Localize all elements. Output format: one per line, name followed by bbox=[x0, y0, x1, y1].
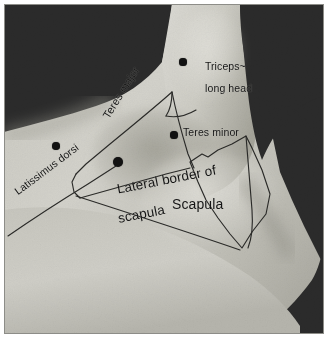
triceps-long-head-marker bbox=[179, 58, 186, 65]
label-teres-minor: Teres minor bbox=[183, 127, 239, 138]
teres-minor-marker bbox=[170, 131, 177, 138]
label-triceps-long-head-line1: Triceps~ bbox=[205, 60, 246, 72]
label-scapula: Scapula bbox=[172, 197, 223, 212]
label-triceps-long-head: Triceps~ long head bbox=[193, 50, 252, 106]
label-triceps-long-head-line2: long head bbox=[205, 82, 252, 94]
anatomy-figure: Triceps~ long head Teres minor Teres maj… bbox=[0, 0, 328, 343]
latissimus-dorsi-marker bbox=[52, 142, 60, 150]
label-lateral-border-line1: Lateral border of bbox=[116, 163, 218, 197]
